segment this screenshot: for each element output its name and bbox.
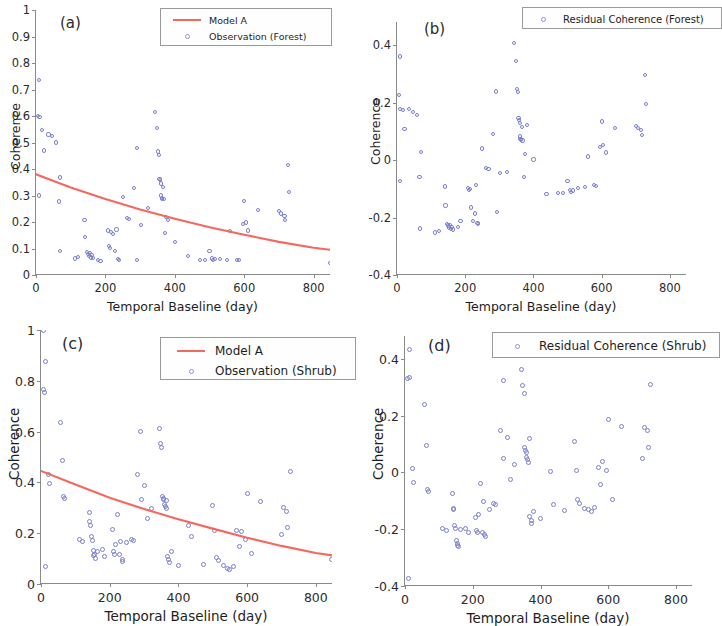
data-point: [398, 54, 402, 58]
x-tick-label-c: 200: [98, 590, 122, 605]
data-point: [406, 576, 411, 581]
data-point: [494, 89, 498, 93]
data-point: [468, 187, 472, 191]
data-point: [644, 102, 648, 106]
data-point: [556, 191, 560, 195]
data-point: [476, 222, 480, 226]
data-point: [596, 465, 601, 470]
data-point: [538, 516, 543, 521]
legend-label: Model A: [215, 344, 263, 358]
data-point: [516, 90, 520, 94]
data-point: [478, 481, 483, 486]
model-curve-a: [36, 10, 330, 274]
data-point: [583, 185, 587, 189]
data-point: [411, 480, 416, 485]
y-tick-a: [32, 222, 36, 223]
x-tick-label-d: 200: [461, 592, 485, 607]
x-tick-label-d: 800: [664, 592, 688, 607]
data-point: [601, 143, 605, 147]
data-point: [576, 186, 580, 190]
data-point: [526, 460, 531, 465]
data-point: [415, 113, 419, 117]
y-tick-c: [37, 482, 41, 483]
data-point: [450, 491, 455, 496]
data-point: [451, 507, 456, 512]
data-point: [514, 59, 518, 63]
x-tick-label-c: 0: [37, 590, 45, 605]
y-tick-d: [401, 416, 405, 417]
data-point: [619, 424, 624, 429]
data-point: [648, 382, 653, 387]
y-tick-label-b: 0.4: [327, 38, 391, 52]
x-axis-label-d: Temporal Baseline (day): [467, 610, 630, 626]
y-tick-label-d: 0.2: [335, 408, 399, 423]
y-tick-a: [32, 143, 36, 144]
data-point: [598, 482, 603, 487]
panel-tag-a: (a): [60, 14, 81, 32]
data-point: [643, 73, 647, 77]
data-point: [529, 521, 534, 526]
data-point: [398, 179, 402, 183]
y-tick-label-b: -0.4: [327, 268, 391, 282]
x-tick-label-d: 600: [596, 592, 620, 607]
data-point: [486, 167, 490, 171]
data-point: [522, 391, 527, 396]
x-axis-label-b: Temporal Baseline (day): [466, 299, 617, 314]
data-point: [437, 229, 441, 233]
data-point: [418, 226, 422, 230]
y-tick-label-c: 0.8: [0, 373, 35, 388]
panel-tag-b: (b): [424, 20, 445, 38]
y-tick-label-a: 0.8: [0, 56, 30, 70]
data-point: [645, 428, 650, 433]
data-point: [474, 183, 478, 187]
legend-c: Model AObservation (Shrub): [160, 337, 356, 380]
data-point: [401, 108, 405, 112]
y-tick-label-d: -0.2: [335, 522, 399, 537]
data-point: [417, 175, 421, 179]
y-tick-b: [393, 160, 397, 161]
data-point: [402, 127, 406, 131]
data-point: [586, 154, 590, 158]
data-point: [458, 219, 462, 223]
data-point: [397, 93, 401, 97]
data-point: [456, 544, 461, 549]
y-tick-label-a: 0.2: [0, 215, 30, 229]
x-tick-c: [247, 583, 248, 587]
data-point: [640, 133, 644, 137]
y-tick-a: [32, 37, 36, 38]
legend-marker-swatch: [515, 344, 520, 349]
y-tick-label-a: 0.9: [0, 30, 30, 44]
legend-label: Observation (Shrub): [215, 364, 337, 378]
data-point: [444, 528, 449, 533]
x-tick-label-d: 0: [401, 592, 409, 607]
legend-d: Residual Coherence (Shrub): [492, 332, 720, 358]
x-tick-b: [465, 274, 466, 278]
x-tick-d: [541, 585, 542, 589]
y-axis-label-c: Coherence: [6, 408, 22, 480]
legend-b: Residual Coherence (Forest): [522, 7, 722, 29]
plot-area-a: [36, 10, 330, 274]
x-tick-label-b: 200: [454, 281, 476, 295]
data-point: [476, 512, 481, 517]
data-point: [456, 225, 460, 229]
y-tick-a: [32, 116, 36, 117]
data-point: [487, 507, 492, 512]
data-point: [574, 468, 579, 473]
y-tick-label-b: -0.2: [327, 211, 391, 225]
data-point: [640, 456, 645, 461]
plot-box-a: 00.10.20.30.40.50.60.70.80.9102004006008…: [35, 10, 330, 275]
data-point: [424, 443, 429, 448]
data-point: [480, 146, 484, 150]
y-tick-a: [32, 169, 36, 170]
data-point: [407, 347, 412, 352]
data-point: [544, 192, 548, 196]
legend-line-swatch: [177, 350, 205, 352]
x-tick-label-d: 400: [529, 592, 553, 607]
data-point: [519, 367, 524, 372]
data-point: [508, 477, 513, 482]
data-point: [466, 530, 471, 535]
data-point: [495, 210, 499, 214]
x-tick-d: [405, 585, 406, 589]
data-point: [527, 436, 532, 441]
legend-label: Residual Coherence (Shrub): [539, 339, 706, 353]
